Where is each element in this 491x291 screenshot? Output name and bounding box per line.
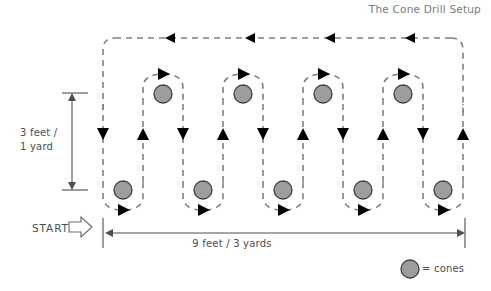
start-arrow-icon [69,217,92,237]
measure-arrow-left [105,229,113,237]
arrow-down-3 [257,128,269,140]
arrow-right-top-2 [238,68,250,80]
start-label: START [32,222,69,234]
shuttle-arrowheads [97,128,469,140]
cone-top-4 [394,85,412,103]
legend-cone-marker [401,260,419,278]
legend-label: = cones [422,263,464,274]
horizontal-measure-group [103,218,465,248]
arrow-up-5 [457,128,469,140]
cone-bottom-1 [114,181,132,199]
vertical-measure-group [62,93,88,190]
arrow-left-2 [245,33,255,43]
bottom-loop-arrowheads [118,204,450,216]
arrow-right-top-3 [318,68,330,80]
shuttle-lines-group [103,104,463,182]
arrow-down-5 [417,128,429,140]
cone-top-2 [234,85,252,103]
arrow-right-bottom-1 [118,204,130,216]
arrow-right-bottom-2 [198,204,210,216]
return-arrowheads [165,33,415,43]
arrow-down-1 [97,128,109,140]
top-loops-group [143,74,423,104]
arrow-up-2 [217,128,229,140]
arrow-right-bottom-4 [358,204,370,216]
arrow-down-2 [177,128,189,140]
arrow-up-1 [137,128,149,140]
top-cones-group [154,85,412,103]
arrow-up-4 [377,128,389,140]
cone-bottom-5 [434,181,452,199]
arrow-right-top-4 [398,68,410,80]
cone-bottom-3 [274,181,292,199]
arrow-right-bottom-5 [438,204,450,216]
cone-top-3 [314,85,332,103]
arrow-left-4 [405,33,415,43]
cone-bottom-2 [194,181,212,199]
cone-top-1 [154,85,172,103]
arrow-down-4 [337,128,349,140]
cone-bottom-4 [354,181,372,199]
cone-drill-diagram: The Cone Drill Setup 3 feet / 1 yard STA… [0,0,491,291]
bottom-cones-group [114,181,452,199]
vertical-measure-label: 3 feet / 1 yard [20,126,57,154]
horizontal-measure-label: 9 feet / 3 yards [192,238,271,249]
return-path-left-corner [103,38,115,110]
arrow-left-1 [165,33,175,43]
page-title: The Cone Drill Setup [369,3,481,15]
measure-arrow-right [457,229,465,237]
top-loop-arrowheads [158,68,410,80]
arrow-right-bottom-3 [278,204,290,216]
arrow-left-3 [325,33,335,43]
measure-arrow-up [68,93,76,101]
arrow-right-top-1 [158,68,170,80]
arrow-up-3 [297,128,309,140]
measure-arrow-down [68,182,76,190]
return-path-right-corner [451,38,463,112]
